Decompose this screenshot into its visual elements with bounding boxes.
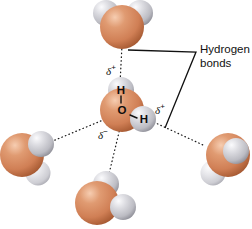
charge-label-delta-plus-right: δ+ bbox=[155, 102, 165, 117]
atom-label-oxygen: O bbox=[118, 104, 127, 116]
delta-sign: + bbox=[160, 102, 165, 111]
callout-label-line-2: bonds bbox=[200, 57, 232, 69]
charge-label-delta-minus: δ− bbox=[98, 127, 108, 142]
labels-layer: H O H δ+ δ+ δ− Hydrogen bonds bbox=[0, 0, 252, 229]
callout-label-line-1: Hydrogen bbox=[200, 43, 250, 55]
delta-sign: + bbox=[111, 63, 116, 72]
charge-label-delta-plus-top: δ+ bbox=[106, 63, 116, 78]
svg-text:δ+: δ+ bbox=[106, 63, 116, 78]
delta-sign: − bbox=[103, 127, 108, 136]
svg-text:δ−: δ− bbox=[98, 127, 108, 142]
hydrogen-bond-diagram: H O H δ+ δ+ δ− Hydrogen bonds bbox=[0, 0, 252, 229]
svg-text:δ+: δ+ bbox=[155, 102, 165, 117]
callout-bracket bbox=[128, 50, 196, 128]
bond-stroke-o-h-right bbox=[130, 115, 137, 118]
atom-label-hydrogen-right: H bbox=[140, 113, 148, 125]
atom-label-hydrogen-top: H bbox=[117, 84, 125, 96]
